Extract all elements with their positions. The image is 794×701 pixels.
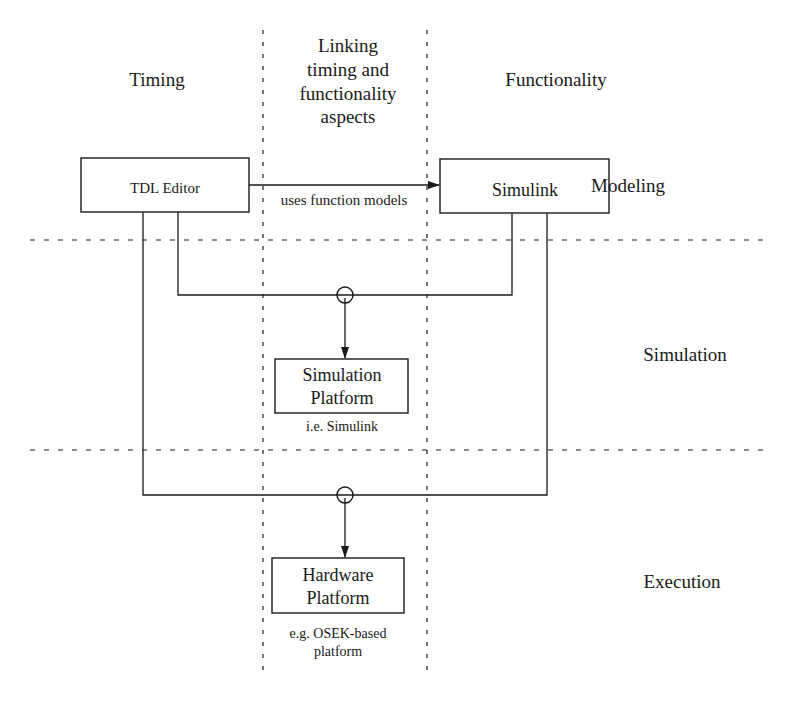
tdl-editor-label: TDL Editor	[130, 181, 200, 196]
column-header-timing: Timing	[129, 70, 184, 89]
hardware-platform-note: e.g. OSEK-based platform	[290, 625, 387, 660]
linking-line-3: functionality	[299, 81, 396, 105]
hardware-platform-label: Hardware Platform	[303, 564, 374, 609]
simulation-platform-line-1: Simulation	[302, 364, 381, 387]
hardware-platform-line-1: Hardware	[303, 564, 374, 587]
row-label-simulation: Simulation	[643, 345, 726, 364]
hardware-platform-note-line-2: platform	[290, 642, 387, 660]
simulation-link-line	[178, 212, 512, 295]
simulation-platform-label: Simulation Platform	[302, 364, 381, 409]
uses-function-models-label: uses function models	[281, 193, 408, 208]
simulation-platform-line-2: Platform	[302, 386, 381, 409]
hardware-platform-note-line-1: e.g. OSEK-based	[290, 625, 387, 643]
linking-line-1: Linking	[299, 34, 396, 58]
column-header-linking: Linking timing and functionality aspects	[299, 34, 396, 129]
simulink-label: Simulink	[492, 181, 558, 199]
linking-line-2: timing and	[299, 57, 396, 81]
linking-line-4: aspects	[299, 105, 396, 129]
column-header-functionality: Functionality	[505, 70, 606, 89]
simulation-platform-note: i.e. Simulink	[306, 420, 378, 434]
row-label-modeling: Modeling	[591, 176, 665, 195]
hardware-platform-line-2: Platform	[303, 586, 374, 609]
row-label-execution: Execution	[643, 572, 720, 591]
